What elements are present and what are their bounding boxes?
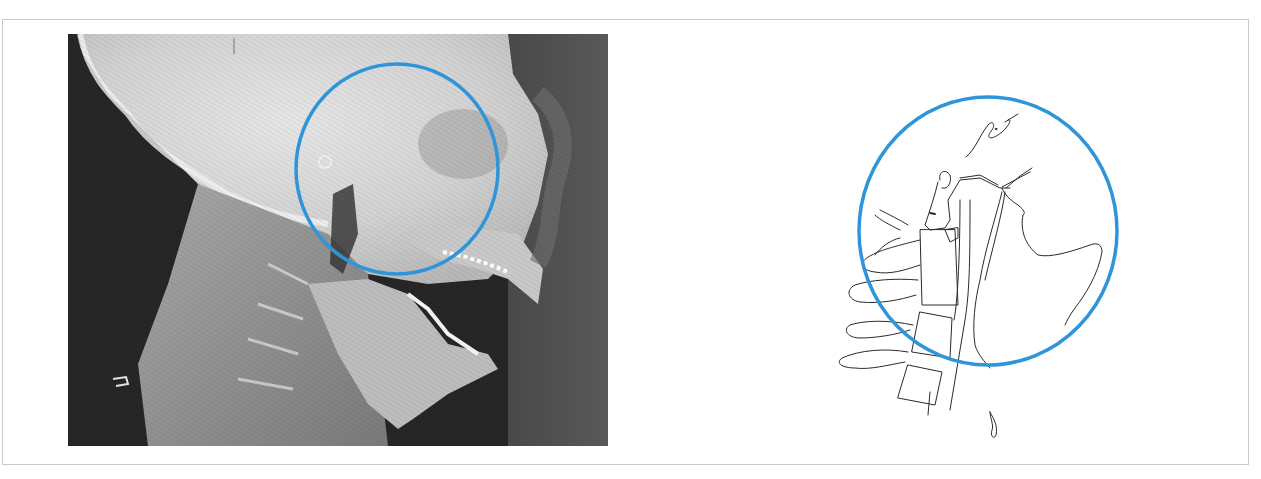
tracing-panel — [780, 80, 1140, 470]
xray-panel — [68, 34, 608, 446]
xray-image — [68, 34, 608, 446]
tracing-drawing — [780, 80, 1140, 470]
highlight-circle-right — [859, 97, 1117, 365]
